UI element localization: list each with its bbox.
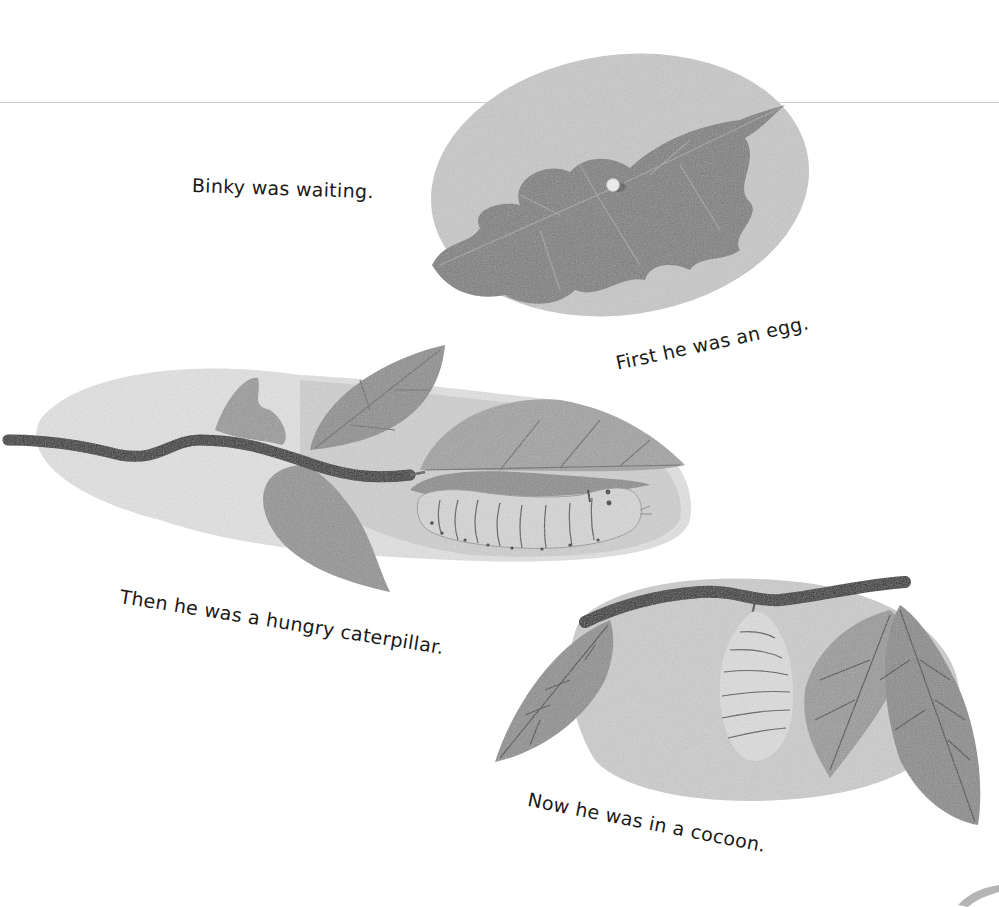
egg-scene [414,30,826,340]
cocoon-scene [495,578,980,825]
next-page-fragment [958,885,999,907]
storybook-illustrations [0,0,999,907]
caterpillar-scene [8,345,691,592]
caterpillar-body [417,488,641,548]
egg [607,179,620,192]
